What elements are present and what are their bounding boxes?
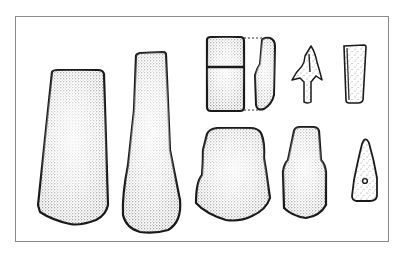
- artifact-adze-large-trapezoid: [38, 70, 108, 225]
- artifact-adze-shouldered-narrow: [283, 127, 326, 218]
- artifact-adze-shouldered-wide: [196, 128, 270, 221]
- artifact-drawing: [0, 0, 405, 258]
- artifact-adze-rectangular-with-profile: [207, 37, 275, 111]
- artifact-axe-elongated: [123, 52, 180, 233]
- artifact-arrowhead-barbed: [292, 46, 322, 103]
- artifact-chisel-narrow: [344, 45, 366, 103]
- artifact-pendant-perforated: [352, 139, 377, 201]
